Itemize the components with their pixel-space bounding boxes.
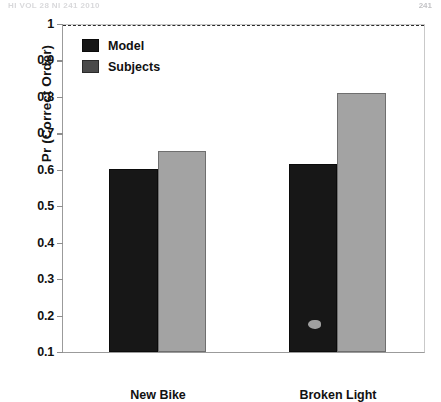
- legend-label-model: Model: [108, 39, 144, 53]
- y-tick-mark: [57, 60, 63, 61]
- x-label-new-bike: New Bike: [130, 388, 186, 402]
- bar-model-new-bike: [109, 169, 158, 352]
- y-tick-label: 0.1: [37, 345, 54, 359]
- legend-item-model: Model: [82, 35, 160, 56]
- black-swatch-icon: [82, 39, 99, 52]
- y-tick-mark: [57, 316, 63, 317]
- y-tick-label: 0.6: [37, 163, 54, 177]
- legend: Model Subjects: [82, 35, 160, 77]
- bar-subjects-broken-light: [337, 93, 386, 352]
- y-tick-mark: [57, 97, 63, 98]
- bar-subjects-new-bike: [158, 151, 206, 352]
- y-tick-mark: [57, 206, 63, 207]
- y-tick-label: 0.3: [37, 272, 54, 286]
- y-tick-label: 1: [47, 17, 54, 31]
- x-label-broken-light: Broken Light: [299, 388, 376, 402]
- scan-artifact: [308, 320, 321, 329]
- y-tick-label: 0.9: [37, 53, 54, 67]
- legend-label-subjects: Subjects: [108, 60, 160, 74]
- gray-swatch-icon: [82, 60, 99, 73]
- y-tick-label: 0.5: [37, 199, 54, 213]
- y-tick-label: 0.4: [37, 236, 54, 250]
- y-tick-label: 0.8: [37, 90, 54, 104]
- y-tick-mark: [57, 133, 63, 134]
- y-tick-mark: [57, 352, 63, 353]
- y-tick-mark: [57, 170, 63, 171]
- y-tick-mark: [57, 243, 63, 244]
- bar-model-broken-light: [289, 164, 337, 352]
- y-tick-mark: [57, 279, 63, 280]
- legend-item-subjects: Subjects: [82, 56, 160, 77]
- plot-area: 1 0.9 0.8 0.7 0.6 0.5 0.4 0.3: [62, 24, 425, 353]
- y-tick-label: 0.2: [37, 309, 54, 323]
- y-tick-label: 0.7: [37, 126, 54, 140]
- reference-line-0.5: [63, 25, 424, 26]
